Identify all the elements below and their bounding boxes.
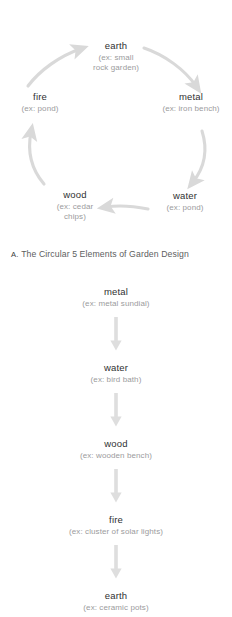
flow-example-earth: (ex: ceramic pots): [0, 603, 232, 612]
element-node-water: water (ex: pond): [142, 190, 228, 213]
element-example-water: (ex: pond): [142, 203, 228, 212]
figure-a-caption-letter: A.: [11, 250, 19, 259]
arrow-water-to-wood: [0, 393, 232, 429]
flow-name-metal: metal: [0, 286, 232, 297]
arrow-fire-to-earth: [0, 545, 232, 581]
flow-node-water: water (ex: bird bath): [0, 362, 232, 385]
down-arrow-icon: [109, 545, 123, 581]
flow-node-wood: wood (ex: wooden bench): [0, 438, 232, 461]
flow-example-wood: (ex: wooden bench): [0, 451, 232, 460]
flow-name-water: water: [0, 362, 232, 373]
flow-example-water: (ex: bird bath): [0, 375, 232, 384]
flow-node-earth: earth (ex: ceramic pots): [0, 590, 232, 613]
arrow-metal-to-water: [193, 131, 205, 182]
element-node-wood: wood (ex: cedar chips): [36, 189, 114, 221]
element-node-fire: fire (ex: pond): [2, 91, 78, 114]
figure-a-caption: A. The Circular 5 Elements of Garden Des…: [11, 249, 226, 259]
flow-example-metal: (ex: metal sundial): [0, 299, 232, 308]
flow-name-earth: earth: [0, 590, 232, 601]
arrow-metal-to-water: [0, 317, 232, 353]
element-name-water: water: [142, 190, 228, 201]
linear-elements-flowchart: metal (ex: metal sundial) water (ex: bir…: [0, 286, 232, 617]
down-arrow-icon: [109, 393, 123, 429]
element-name-wood: wood: [36, 189, 114, 200]
circular-elements-diagram: earth (ex: small rock garden) metal (ex:…: [0, 0, 232, 245]
flow-node-fire: fire (ex: cluster of solar lights): [0, 514, 232, 537]
flow-node-metal: metal (ex: metal sundial): [0, 286, 232, 309]
element-name-earth: earth: [72, 40, 160, 51]
element-example-wood: (ex: cedar: [36, 202, 114, 211]
flow-example-fire: (ex: cluster of solar lights): [0, 527, 232, 536]
element-example-metal: (ex: iron bench): [150, 104, 232, 113]
element-node-earth: earth (ex: small rock garden): [72, 40, 160, 72]
element-node-metal: metal (ex: iron bench): [150, 91, 232, 114]
down-arrow-icon: [109, 469, 123, 505]
figure-a-caption-text: The Circular 5 Elements of Garden Design: [21, 249, 189, 259]
element-name-metal: metal: [150, 91, 232, 102]
down-arrow-icon: [109, 317, 123, 353]
element-example-fire: (ex: pond): [2, 104, 78, 113]
flow-name-wood: wood: [0, 438, 232, 449]
element-name-fire: fire: [2, 91, 78, 102]
element-example-wood-line2: chips): [36, 212, 114, 221]
element-example-earth-line2: rock garden): [72, 63, 160, 72]
element-example-earth: (ex: small: [72, 53, 160, 62]
arrow-wood-to-fire: [30, 132, 44, 184]
arrow-wood-to-fire: [0, 469, 232, 505]
flow-name-fire: fire: [0, 514, 232, 525]
